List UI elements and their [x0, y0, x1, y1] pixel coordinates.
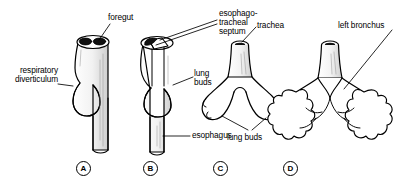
- panel-d-illustration: [268, 41, 392, 139]
- label-left-bronchus: left bronchus: [338, 21, 384, 30]
- panel-b-illustration: [141, 37, 173, 156]
- respiratory-development-figure: foregut respiratory diverticulum esophag…: [0, 0, 412, 190]
- panel-c-illustration: [202, 41, 278, 120]
- label-lung-buds-b-line2: buds: [194, 78, 212, 87]
- panel-a-illustration: [73, 36, 109, 154]
- label-septum-line3: septum: [219, 27, 246, 36]
- label-foregut: foregut: [108, 13, 133, 22]
- panel-letter-d: D: [283, 161, 298, 176]
- panel-letter-c: C: [213, 161, 228, 176]
- label-respiratory-diverticulum-line2: diverticulum: [0, 75, 58, 84]
- label-esophagus: esophagus: [192, 131, 232, 140]
- panel-letter-b: B: [143, 161, 158, 176]
- label-lung-buds-c: lung buds: [227, 133, 262, 142]
- label-trachea: trachea: [257, 21, 284, 30]
- panel-letter-a: A: [76, 161, 91, 176]
